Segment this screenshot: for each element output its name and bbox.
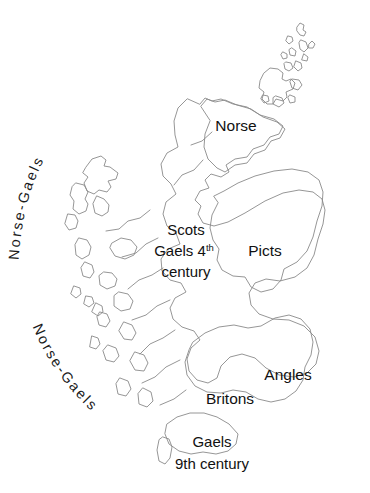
scots-gaels-line-1: Scots [167,221,205,238]
scotland-peoples-map: Norse Picts Angles Britons Scots Gaels 4… [0,0,370,493]
scots-gaels-line-3: century [161,263,211,280]
scots-gaels-line-2-text: Gaels 4 [154,242,206,259]
region-label-picts: Picts [248,242,282,259]
map-canvas: Norse Picts Angles Britons Scots Gaels 4… [0,0,370,493]
region-label-britons: Britons [206,390,254,407]
region-label-norse: Norse [215,117,256,134]
gaels-9th-line-2: 9th century [175,455,250,472]
scots-gaels-superscript: th [206,242,214,253]
region-label-angles: Angles [264,366,312,383]
gaels-9th-line-1: Gaels [192,433,231,450]
scots-gaels-line-2: Gaels 4th [154,242,214,260]
